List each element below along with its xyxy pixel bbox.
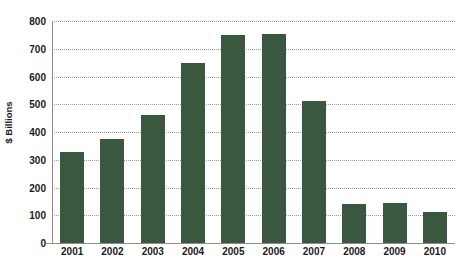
x-tick-label-2006: 2006 (263, 246, 285, 257)
bar-2003 (141, 115, 165, 243)
y-tick-label-400: 400 (29, 127, 46, 138)
x-tick-label-2008: 2008 (343, 246, 365, 257)
bar-2004 (181, 63, 205, 243)
bar-2009 (383, 203, 407, 243)
y-tick-label-200: 200 (29, 182, 46, 193)
bars-layer (52, 21, 455, 243)
y-axis-tick-labels: 0100200300400500600700800 (16, 0, 48, 274)
x-tick-label-2007: 2007 (303, 246, 325, 257)
y-axis-title-label: $ Billions (3, 101, 14, 143)
y-tick-label-700: 700 (29, 43, 46, 54)
bar-2008 (342, 204, 366, 243)
bar-2005 (221, 35, 245, 243)
bar-chart: $ Billions 0100200300400500600700800 200… (0, 0, 465, 274)
bar-2007 (302, 101, 326, 243)
x-tick-label-2003: 2003 (142, 246, 164, 257)
bar-2006 (262, 34, 286, 244)
y-tick-label-100: 100 (29, 210, 46, 221)
x-tick-label-2009: 2009 (383, 246, 405, 257)
y-tick-label-300: 300 (29, 154, 46, 165)
x-tick-label-2005: 2005 (222, 246, 244, 257)
x-axis-line (46, 243, 455, 244)
x-tick-label-2004: 2004 (182, 246, 204, 257)
bar-2001 (60, 152, 84, 243)
y-tick-label-600: 600 (29, 71, 46, 82)
y-tick-label-800: 800 (29, 16, 46, 27)
bar-2002 (100, 139, 124, 243)
x-tick-label-2002: 2002 (101, 246, 123, 257)
x-tick-label-2001: 2001 (61, 246, 83, 257)
x-tick-label-2010: 2010 (424, 246, 446, 257)
y-axis-title: $ Billions (0, 0, 16, 245)
bar-2010 (423, 212, 447, 243)
y-tick-label-500: 500 (29, 99, 46, 110)
x-axis-tick-labels: 2001200220032004200520062007200820092010 (52, 246, 455, 266)
